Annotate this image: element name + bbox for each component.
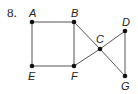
vertex-a [30,20,35,25]
vertex-label-e: E [28,70,36,82]
vertex-d [123,29,128,34]
vertex-label-d: D [122,16,130,28]
vertex-label-c: C [96,33,104,45]
graph-diagram: ABCDEFG [0,0,138,94]
vertex-b [72,20,77,25]
edge-cg [100,49,125,76]
vertex-g [123,74,128,79]
vertex-label-b: B [71,7,78,19]
vertex-f [72,64,77,69]
edge-fc [74,49,100,66]
vertex-label-g: G [121,80,130,92]
vertex-label-a: A [28,7,36,19]
vertex-e [30,64,35,69]
vertex-label-f: F [71,70,79,82]
vertex-c [98,47,103,52]
